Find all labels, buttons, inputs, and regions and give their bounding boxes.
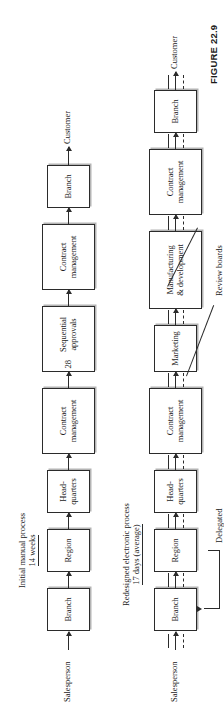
node-initial-contract-management-2: Contract management: [42, 224, 95, 290]
redesigned-start-label: Salesperson: [169, 661, 179, 702]
initial-manual-process-caption: Initial manual process 14 weeks: [18, 513, 39, 588]
node-label: Branch: [64, 598, 73, 622]
node-label: Contract management: [166, 400, 184, 442]
handoff-line-1-bottom: [183, 573, 184, 587]
delegated-bracket-vertical-left: [204, 608, 220, 609]
node-initial-sequential-approvals: 28 Sequential approvals: [42, 306, 95, 372]
annotation-review-boards: Review boards: [214, 245, 224, 296]
handoff-line-7-bottom: [183, 134, 184, 148]
initial-start-label: Salesperson: [62, 661, 72, 702]
handoff-line-3-bottom: [183, 455, 184, 469]
arrow-initial-start: [68, 632, 69, 650]
node-label: Region: [171, 539, 180, 563]
node-label: Region: [64, 539, 73, 563]
handoff-line-2-bottom: [183, 514, 184, 528]
handoff-line-7-top: [168, 134, 169, 148]
handoff-line-8-top: [168, 75, 169, 89]
arrow-initial-4: [68, 372, 69, 388]
handoff-line-1-top: [168, 573, 169, 587]
node-initial-branch-1: Branch: [47, 588, 90, 631]
arrow-initial-2: [68, 513, 69, 529]
arrow-redesigned-1: [175, 572, 176, 588]
node-label: Sequential approvals: [59, 317, 77, 361]
handoff-line-5-bottom: [183, 310, 184, 324]
handoff-line-5-top: [168, 310, 169, 324]
handoff-line-4-top: [168, 373, 169, 387]
handoff-line-2-top: [168, 514, 169, 528]
handoff-line-4-bottom: [183, 373, 184, 387]
initial-manual-process-duration: 14 weeks: [28, 535, 39, 567]
node-label: Head- quarters: [59, 478, 77, 505]
handoff-line-8-bottom: [183, 75, 184, 89]
node-label: Head- quarters: [166, 478, 184, 505]
node-redesigned-contract-management-2: Contract management: [149, 149, 202, 215]
arrow-redesigned-5: [175, 309, 176, 325]
node-initial-region: Region: [47, 529, 90, 572]
node-label: Branch: [171, 100, 180, 124]
initial-end-label: Customer: [62, 111, 72, 144]
arrow-redesigned-2: [175, 513, 176, 529]
handoff-line-6-top: [168, 216, 169, 230]
node-count: 28: [64, 360, 73, 368]
arrow-initial-6: [68, 208, 69, 224]
node-redesigned-region: Region: [154, 529, 197, 572]
node-initial-contract-management-1: Contract management: [42, 388, 95, 454]
node-initial-branch-2: Branch: [47, 165, 90, 208]
node-label: Contract management: [59, 400, 77, 442]
handoff-line-0-bottom: [183, 634, 184, 648]
arrow-redesigned-3: [175, 454, 176, 470]
arrow-redesigned-end: [175, 72, 176, 90]
arrow-initial-1: [68, 572, 69, 588]
node-label: Branch: [64, 175, 73, 199]
annotation-delegated: Delegated: [214, 509, 224, 543]
arrow-initial-5: [68, 290, 69, 306]
handoff-line-6-bottom: [183, 216, 184, 230]
node-label: Contract management: [166, 161, 184, 203]
node-redesigned-contract-management-1: Contract management: [149, 388, 202, 454]
node-redesigned-branch-2: Branch: [154, 90, 197, 133]
node-label: Branch: [171, 598, 180, 622]
handoff-line-0-top: [168, 634, 169, 648]
handoff-line-3-top: [168, 455, 169, 469]
arrow-initial-3: [68, 454, 69, 470]
arrow-initial-end: [68, 147, 69, 165]
redesigned-electronic-process-duration: 17 days (average): [132, 524, 143, 584]
figure-caption: FIGURE 22.9: [208, 25, 219, 84]
redesigned-electronic-process-caption: Redesigned electronic process 17 days (a…: [122, 503, 143, 606]
arrow-redesigned-4: [175, 372, 176, 388]
delegated-bracket-horizontal: [219, 550, 220, 609]
arrow-redesigned-start: [175, 632, 176, 650]
node-redesigned-branch-1: Branch: [154, 588, 197, 631]
delegated-arrowhead: [197, 606, 202, 612]
node-redesigned-headquarters: Head- quarters: [154, 470, 197, 513]
arrow-redesigned-6: [175, 215, 176, 231]
arrow-redesigned-7: [175, 133, 176, 149]
node-initial-headquarters: Head- quarters: [47, 470, 90, 513]
figure-canvas: Initial manual process 14 weeks Salesper…: [0, 0, 224, 706]
redesigned-end-label: Customer: [169, 36, 179, 69]
node-label: Contract management: [59, 236, 77, 278]
node-label: Marketing: [171, 331, 180, 366]
